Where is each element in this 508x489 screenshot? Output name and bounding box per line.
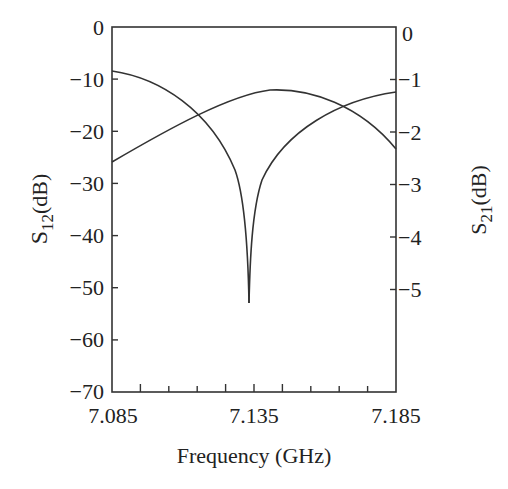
x-tick-labels: 7.085 7.135 7.185 <box>88 403 421 428</box>
svg-text:S12(dB): S12(dB) <box>26 174 57 245</box>
plot-frame <box>112 27 396 392</box>
left-axis-title: S12(dB) <box>26 174 57 245</box>
chart-canvas: 0 −10 −20 −30 −40 −50 −60 −70 0 −1 −2 −3… <box>0 0 508 489</box>
left-axis-title-unit: (dB) <box>27 174 52 214</box>
right-axis-title-sub: 21 <box>477 206 496 223</box>
right-tick-2: −2 <box>398 120 421 145</box>
right-tick-0: 0 <box>402 21 413 46</box>
right-axis-title-main: S <box>466 223 491 235</box>
left-tick-5: −50 <box>70 275 104 300</box>
left-tick-7: −70 <box>70 379 104 404</box>
x-tick-2: 7.185 <box>371 403 421 428</box>
right-axis-ticks <box>390 80 396 290</box>
left-tick-2: −20 <box>70 119 104 144</box>
left-tick-labels: 0 −10 −20 −30 −40 −50 −60 −70 <box>70 15 104 404</box>
x-axis-title: Frequency (GHz) <box>177 443 332 468</box>
left-tick-6: −60 <box>70 327 104 352</box>
x-axis-ticks <box>140 384 367 392</box>
left-tick-3: −30 <box>70 171 104 196</box>
right-tick-3: −3 <box>398 172 421 197</box>
left-tick-1: −10 <box>70 67 104 92</box>
s12-notch-right <box>249 92 396 303</box>
s12-curve <box>112 90 396 162</box>
right-tick-1: −1 <box>398 67 421 92</box>
x-tick-0: 7.085 <box>88 403 138 428</box>
svg-text:S21(dB): S21(dB) <box>466 165 496 235</box>
left-tick-0: 0 <box>93 15 104 40</box>
right-tick-5: −5 <box>398 277 421 302</box>
right-axis-title: S21(dB) <box>466 165 496 235</box>
right-axis-title-unit: (dB) <box>466 165 491 205</box>
s21-curve <box>112 71 249 303</box>
left-tick-4: −40 <box>70 223 104 248</box>
left-axis-title-sub: 12 <box>38 214 57 231</box>
left-axis-title-main: S <box>26 231 52 244</box>
x-tick-1: 7.135 <box>229 403 279 428</box>
right-tick-labels: 0 −1 −2 −3 −4 −5 <box>398 21 421 302</box>
right-tick-4: −4 <box>398 225 421 250</box>
left-axis-ticks <box>112 79 118 340</box>
